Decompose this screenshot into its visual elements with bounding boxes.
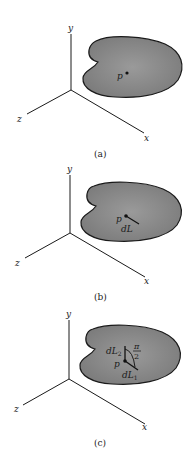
x-axis-label: x (144, 133, 149, 143)
dl2-sub: 2 (118, 350, 122, 357)
panel-caption: (b) (94, 292, 107, 302)
dl-label: dL (121, 224, 133, 234)
y-axis-label: y (66, 164, 73, 174)
y-axis-label: y (67, 23, 74, 33)
body-blob (83, 37, 182, 98)
dl1-base: dL (122, 370, 134, 380)
panel-caption: (a) (94, 149, 106, 159)
panel-b: y z x p dL (b) (14, 164, 181, 302)
z-axis-label: z (14, 258, 20, 268)
point-label: p (116, 214, 122, 224)
z-axis (25, 233, 70, 258)
point-p (125, 71, 128, 74)
x-axis (69, 379, 145, 424)
z-axis (27, 90, 71, 114)
dl2-base: dL (106, 346, 118, 356)
dl1-sub: 1 (134, 374, 138, 381)
angle-numerator: π (133, 342, 140, 351)
angle-denominator: 2 (134, 352, 139, 361)
point-label: p (114, 359, 120, 369)
z-axis-label: z (16, 114, 22, 124)
panel-c: y z x p dL2 dL1 π 2 (c) (13, 309, 180, 448)
panel-a: y z x p (a) (16, 23, 182, 159)
y-axis-label: y (65, 309, 72, 319)
panel-caption: (c) (94, 438, 106, 448)
z-axis (23, 379, 69, 405)
point-label: p (117, 71, 123, 81)
z-axis-label: z (13, 404, 19, 414)
x-axis-label: x (144, 276, 149, 286)
strain-diagram: y z x p (a) y z x p dL (b) y z x (0, 0, 194, 473)
x-axis-label: x (142, 422, 147, 432)
